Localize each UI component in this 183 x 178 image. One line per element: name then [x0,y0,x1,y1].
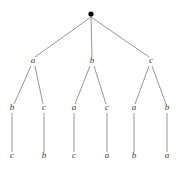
root-node-dot[interactable] [88,11,93,16]
node-label-a[interactable]: a [165,150,170,160]
node-label-b[interactable]: b [165,102,170,112]
edge-layer [12,17,167,152]
node-label-c[interactable]: c [10,150,14,160]
node-label-b[interactable]: b [42,150,47,160]
tree-edge [14,66,31,104]
node-label-c[interactable]: c [42,102,46,112]
tree-edge [94,66,106,104]
node-label-b[interactable]: b [10,102,15,112]
tree-edge [35,66,43,104]
node-label-a[interactable]: a [31,55,36,65]
tree-edge [135,66,149,104]
node-label-c[interactable]: c [149,55,153,65]
node-label-b[interactable]: b [90,55,95,65]
tree-edge [91,17,149,57]
tree-edge [75,66,90,104]
tree-edge [152,66,166,104]
node-label-a[interactable]: a [132,102,137,112]
tree-svg-canvas: abcbcacabcbcaba [0,0,183,178]
node-label-a[interactable]: a [72,102,77,112]
node-layer: abcbcacabcbcaba [10,11,170,160]
node-label-c[interactable]: c [105,102,109,112]
node-label-c[interactable]: c [72,150,76,160]
tree-diagram-figure: abcbcacabcbcaba [0,0,183,178]
tree-edge [35,17,91,57]
node-label-a[interactable]: a [105,150,110,160]
node-label-b[interactable]: b [132,150,137,160]
tree-edge [91,17,92,57]
